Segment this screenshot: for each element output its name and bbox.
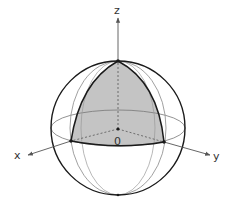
x-axis [28, 141, 71, 155]
north-pole-point [116, 59, 120, 63]
sphere-diagram: z x y 0 [0, 0, 234, 207]
origin-point [116, 127, 119, 130]
x-axis-label: x [14, 149, 21, 162]
y-intercept-point [162, 140, 166, 144]
x-intercept-point [69, 139, 73, 143]
y-axis-label: y [213, 150, 220, 163]
diagram-canvas: z x y 0 [0, 0, 234, 207]
y-axis [164, 142, 210, 155]
z-axis-label: z [114, 4, 120, 17]
south-pole-point [117, 194, 119, 196]
origin-label: 0 [114, 135, 121, 148]
shaded-octant-region [71, 61, 164, 146]
